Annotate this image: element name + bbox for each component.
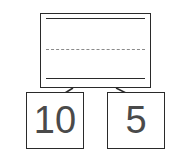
writing-line-bottom (46, 78, 145, 79)
part-box-left: 10 (26, 92, 84, 149)
part-box-right: 5 (107, 92, 165, 149)
part-value-left: 10 (34, 99, 76, 142)
part-value-right: 5 (125, 99, 146, 142)
writing-line-top (46, 18, 145, 19)
whole-box (40, 13, 151, 88)
writing-line-dashed (46, 49, 145, 50)
